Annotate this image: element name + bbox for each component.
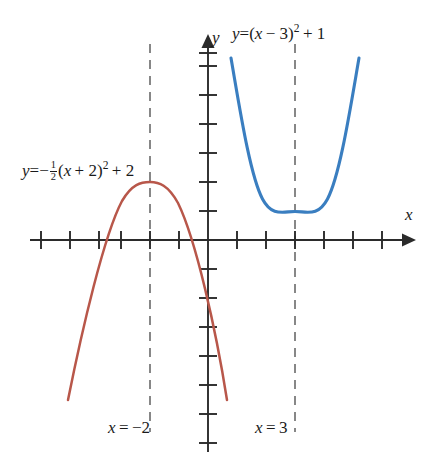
blue-eq-minus: − 3 (266, 24, 288, 43)
guide-left-value: −2 (132, 418, 150, 437)
y-axis-label: y (212, 28, 220, 48)
guide-right-value: 3 (279, 418, 288, 437)
red-eq-rel: = (30, 161, 40, 180)
red-eq-pow: 2 (103, 159, 109, 172)
red-eq-lhs: y (22, 161, 30, 180)
guide-right-var: x (255, 418, 263, 437)
blue-eq-tail: + 1 (303, 24, 325, 43)
red-eq-var: x (64, 161, 72, 180)
blue-eq-lhs: y (232, 24, 240, 43)
blue-eq-var: x (255, 24, 263, 43)
parabola-graph-figure (0, 0, 434, 470)
red-eq-fraction: 12 (50, 160, 57, 183)
guide-label-x-3: x = 3 (255, 418, 287, 438)
red-equation-label: y=−12(x + 2)2 + 2 (22, 160, 134, 183)
red-eq-neg: − (39, 161, 49, 180)
red-eq-denominator: 2 (50, 172, 57, 183)
red-eq-tail: + 2 (112, 161, 134, 180)
blue-eq-pow: 2 (294, 22, 300, 35)
canvas-background (0, 0, 434, 470)
x-axis-label: x (405, 205, 413, 225)
guide-left-rel: = (119, 418, 129, 437)
blue-eq-rel: = (240, 24, 250, 43)
guide-right-rel: = (266, 418, 276, 437)
blue-equation-label: y=(x − 3)2 + 1 (232, 24, 325, 44)
red-eq-plus: + 2 (75, 161, 97, 180)
guide-left-var: x (108, 418, 116, 437)
guide-label-x-neg2: x = −2 (108, 418, 150, 438)
